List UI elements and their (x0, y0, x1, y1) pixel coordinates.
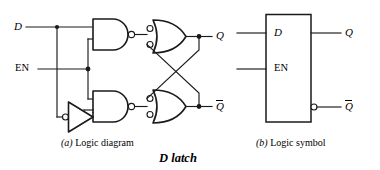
inverter-gate (69, 102, 94, 132)
junction-en (86, 67, 91, 72)
caption-b-letter: (b) (256, 137, 268, 148)
inverter-input-bubble (63, 114, 69, 120)
nand-gate-qnot-input-bubble-bottom (147, 112, 153, 118)
logic-diagram-q-not-text: Q (216, 100, 224, 112)
nand-gate-qnot (153, 90, 186, 123)
logic-symbol-group (237, 15, 341, 123)
caption-b-text: Logic symbol (268, 137, 326, 148)
logic-diagram-q-not-label: Q (216, 100, 224, 112)
logic-symbol-d-label: D (274, 27, 282, 38)
caption-logic-diagram: (a) Logic diagram (61, 137, 134, 148)
d-latch-figure: D EN Q Q D EN Q Q (a) Logic diagram (b) … (0, 0, 380, 170)
logic-diagram-d-label: D (14, 21, 22, 32)
logic-diagram-group (26, 19, 212, 132)
caption-a-text: Logic diagram (73, 137, 134, 148)
nand-gate-top-output-bubble (128, 31, 134, 37)
nand-gate-q-input-bubble-top (147, 26, 153, 32)
logic-diagram-en-label: EN (15, 63, 29, 74)
logic-symbol-q-label: Q (345, 27, 353, 38)
latch-box (266, 15, 311, 123)
caption-logic-symbol: (b) Logic symbol (256, 137, 325, 148)
symbol-qnot-output-bubble (311, 104, 317, 110)
junction-d (55, 25, 59, 29)
figure-title: D latch (159, 151, 197, 166)
logic-symbol-q-not-text: Q (345, 100, 353, 112)
logic-symbol-en-label: EN (274, 63, 288, 74)
logic-diagram-q-label: Q (216, 30, 224, 41)
logic-symbol-q-not-label: Q (345, 100, 353, 112)
nand-gate-bottom (93, 91, 128, 122)
nand-gate-bottom-output-bubble (128, 103, 134, 109)
caption-a-letter: (a) (61, 137, 73, 148)
nand-gate-q (153, 20, 186, 53)
nand-gate-top (93, 19, 128, 50)
